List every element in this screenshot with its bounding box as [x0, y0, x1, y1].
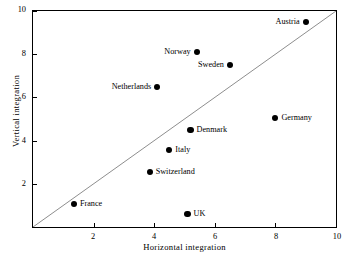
data-point-label: Norway — [164, 48, 190, 56]
x-tick-label: 4 — [152, 233, 156, 241]
data-point-label: Denmark — [197, 126, 227, 134]
data-point-label: Italy — [175, 146, 190, 154]
x-tick — [275, 223, 276, 227]
scatter-plot-figure: AustriaNorwaySwedenNetherlandsGermanyDen… — [0, 0, 354, 263]
data-point-marker — [303, 19, 309, 25]
y-tick — [33, 54, 37, 55]
data-point-marker — [184, 211, 190, 217]
x-tick — [215, 223, 216, 227]
data-point-label: France — [80, 200, 102, 208]
plot-area: AustriaNorwaySwedenNetherlandsGermanyDen… — [32, 10, 337, 228]
x-tick — [336, 223, 337, 227]
data-point-label: Switzerland — [156, 168, 195, 176]
x-tick-label: 8 — [274, 233, 278, 241]
data-point-label: Netherlands — [112, 82, 152, 90]
x-tick-label: 10 — [333, 233, 341, 241]
y-tick — [33, 11, 37, 12]
y-tick — [33, 97, 37, 98]
x-tick-label: 6 — [213, 233, 217, 241]
data-point-marker — [194, 49, 200, 55]
x-axis-title: Horizontal integration — [32, 242, 337, 252]
data-point-label: Austria — [276, 18, 300, 26]
x-tick-label: 2 — [91, 233, 95, 241]
data-point-label: Germany — [281, 114, 311, 122]
data-point-marker — [187, 127, 193, 133]
y-tick — [33, 184, 37, 185]
data-point-marker — [154, 84, 160, 90]
plot-inner: AustriaNorwaySwedenNetherlandsGermanyDen… — [33, 11, 336, 227]
x-tick — [154, 223, 155, 227]
y-tick-label: 10 — [18, 6, 26, 14]
data-point-label: UK — [194, 210, 206, 218]
y-axis-title: Vertical integration — [11, 41, 21, 181]
y-tick-label: 6 — [22, 93, 26, 101]
y-tick-label: 4 — [22, 137, 26, 145]
y-tick-label: 8 — [22, 49, 26, 57]
data-point-marker — [147, 169, 153, 175]
x-tick — [94, 223, 95, 227]
data-point-label: Sweden — [198, 61, 224, 69]
y-tick-label: 2 — [22, 180, 26, 188]
y-tick — [33, 141, 37, 142]
